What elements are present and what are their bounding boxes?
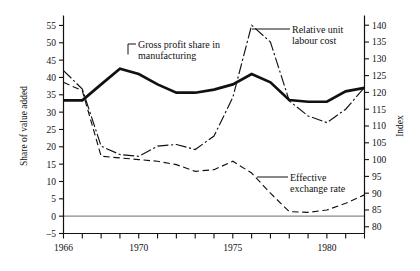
annotation-exchange-rate-line1: Effective [290, 172, 327, 183]
x-axis-ticks: 1966197019751980 [54, 234, 365, 253]
y-tick-label-left: 35 [47, 90, 57, 100]
x-tick-label: 1970 [129, 243, 148, 253]
annotation-exchange-rate-line2: exchange rate [290, 183, 346, 194]
y-tick-label-right: 120 [372, 88, 387, 98]
x-tick-label: 1975 [223, 243, 242, 253]
y-tick-label-right: 105 [372, 138, 387, 148]
annotation-gross-profit-line2: manufacturing [138, 50, 196, 61]
y-tick-label-right: 110 [372, 121, 386, 131]
x-tick-label: 1980 [317, 243, 336, 253]
chart-figure: 1966197019751980 –5051015202530354045505… [0, 0, 420, 271]
y-tick-label-left: 30 [47, 108, 57, 118]
y-tick-label-right: 125 [372, 71, 387, 81]
annotations-group: Gross profit share inmanufacturingRelati… [128, 24, 346, 194]
y-tick-label-left: 20 [47, 142, 57, 152]
y-axis-left-ticks: –50510152025303540455055 [46, 21, 64, 239]
axis-titles-group: Share of value addedIndex [19, 86, 405, 166]
x-tick-label: 1966 [54, 243, 73, 253]
y-tick-label-left: 15 [47, 160, 57, 170]
y-tick-label-right: 115 [372, 105, 386, 115]
y-tick-label-right: 135 [372, 37, 387, 47]
y-tick-label-left: 40 [47, 73, 57, 83]
y-axis-right-title: Index [395, 115, 405, 137]
y-tick-label-right: 130 [372, 54, 387, 64]
y-tick-label-right: 80 [372, 222, 382, 232]
y-tick-label-left: 5 [51, 194, 56, 204]
y-tick-label-right: 90 [372, 189, 382, 199]
annotation-rulc-line1: Relative unit [292, 24, 344, 35]
y-tick-label-left: 25 [47, 125, 57, 135]
annotation-rulc-line2: labour cost [292, 35, 336, 46]
annotation-gross-profit-line1: Gross profit share in [138, 39, 220, 50]
y-tick-label-left: 0 [51, 212, 56, 222]
y-axis-right-ticks: 80859095100105110115120125130135140 [365, 21, 387, 233]
y-tick-label-left: 50 [47, 38, 57, 48]
y-tick-label-left: –5 [46, 229, 57, 239]
y-tick-label-right: 100 [372, 155, 387, 165]
y-tick-label-left: 10 [47, 177, 57, 187]
series-line-0 [64, 69, 365, 102]
y-tick-label-left: 55 [47, 21, 57, 31]
chart-canvas: 1966197019751980 –5051015202530354045505… [0, 0, 420, 271]
y-tick-label-right: 85 [372, 205, 382, 215]
y-tick-label-right: 140 [372, 21, 387, 31]
y-tick-label-right: 95 [372, 172, 382, 182]
y-tick-label-left: 45 [47, 56, 57, 66]
y-axis-left-title: Share of value added [19, 86, 29, 166]
